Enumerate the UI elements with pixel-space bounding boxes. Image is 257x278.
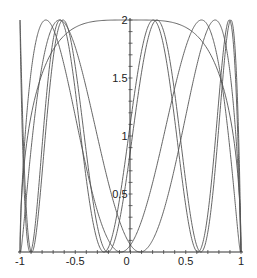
x-tick-label: 0.5: [178, 255, 193, 267]
x-tick-label: 0: [123, 255, 129, 267]
x-tick-label: 1: [238, 255, 244, 267]
y-tick-label: 1: [121, 130, 127, 142]
x-tick-label: -0.5: [66, 255, 85, 267]
y-tick-label: 0.5: [112, 188, 127, 200]
y-tick-label: 1.5: [112, 72, 127, 84]
y-tick-label: 2: [121, 14, 127, 26]
x-axis-ticks: -1-0.500.51: [15, 250, 244, 267]
chart-plot: -1-0.500.51 0.511.52: [0, 0, 257, 278]
x-tick-label: -1: [15, 255, 25, 267]
